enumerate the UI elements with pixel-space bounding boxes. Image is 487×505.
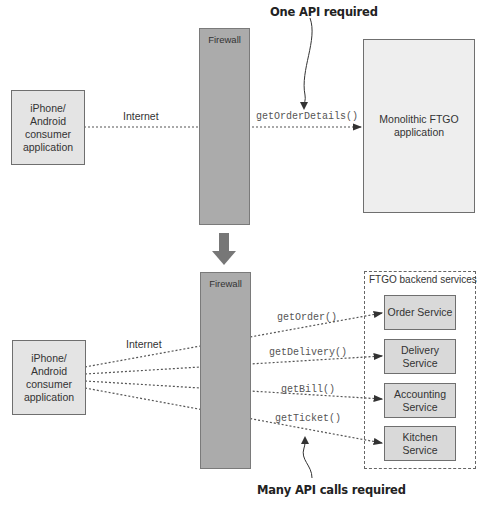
accounting-service-box: Accounting Service xyxy=(384,383,456,418)
order-service-box: Order Service xyxy=(384,295,456,330)
group-title: FTGO backend services xyxy=(369,274,477,285)
kitchen-service-box: Kitchen Service xyxy=(384,426,456,461)
one-api-callout: One API required xyxy=(270,5,378,19)
firewall-top: Firewall xyxy=(199,28,250,225)
monolith-box: Monolithic FTGO application xyxy=(363,39,475,213)
delivery-service-box: Delivery Service xyxy=(384,339,456,374)
callout-curve-top xyxy=(304,18,312,106)
firewall-bottom: Firewall xyxy=(200,272,251,469)
getorderdetails-label: getOrderDetails() xyxy=(256,111,358,122)
getticket-label: getTicket() xyxy=(275,413,341,424)
getdelivery-label: getDelivery() xyxy=(269,347,347,358)
transition-arrow-head xyxy=(212,251,236,265)
transition-arrow-shaft xyxy=(219,233,229,253)
client-app-box-top: iPhone/ Android consumer application xyxy=(11,90,85,165)
callout-curve-bottom xyxy=(303,440,312,478)
internet-label-bottom: Internet xyxy=(126,338,162,350)
firewall-label-bottom: Firewall xyxy=(209,278,242,289)
many-api-callout: Many API calls required xyxy=(257,483,406,497)
internet-label-top: Internet xyxy=(123,110,159,122)
getorder-label: getOrder() xyxy=(277,312,337,323)
firewall-label-top: Firewall xyxy=(208,34,241,45)
client-app-box-bottom: iPhone/ Android consumer application xyxy=(12,340,86,415)
getbill-label: getBill() xyxy=(281,384,335,395)
